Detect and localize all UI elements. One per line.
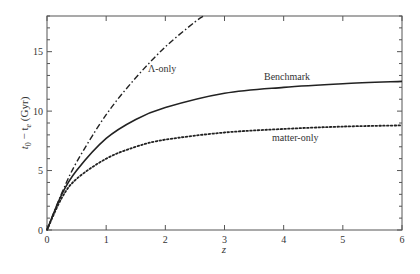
x-tick-label: 5 xyxy=(340,234,345,245)
x-tick-label: 4 xyxy=(281,234,286,245)
x-axis-label: z xyxy=(221,243,227,255)
y-axis-label: t0 − te (Gyr) xyxy=(18,96,33,149)
lambda-only-label: Λ-only xyxy=(148,63,176,74)
tick-labels: 0123456051015 xyxy=(33,46,405,245)
y-tick-label: 15 xyxy=(33,46,43,57)
y-tick-label: 5 xyxy=(38,165,43,176)
x-tick-label: 0 xyxy=(45,234,50,245)
benchmark-curve xyxy=(47,81,402,230)
benchmark-label: Benchmark xyxy=(264,71,310,82)
y-tick-label: 0 xyxy=(38,225,43,236)
axis-ticks xyxy=(47,16,402,230)
x-tick-label: 1 xyxy=(104,234,109,245)
y-tick-label: 10 xyxy=(33,106,43,117)
--only-curve xyxy=(47,16,204,230)
curves xyxy=(47,16,402,230)
plot-frame xyxy=(47,16,402,230)
x-tick-label: 2 xyxy=(163,234,168,245)
matter-only-curve xyxy=(47,125,402,230)
lookback-time-chart: 0123456051015 Λ-only Benchmark matter-on… xyxy=(0,0,420,274)
x-tick-label: 6 xyxy=(400,234,405,245)
matter-only-label: matter-only xyxy=(272,132,318,143)
